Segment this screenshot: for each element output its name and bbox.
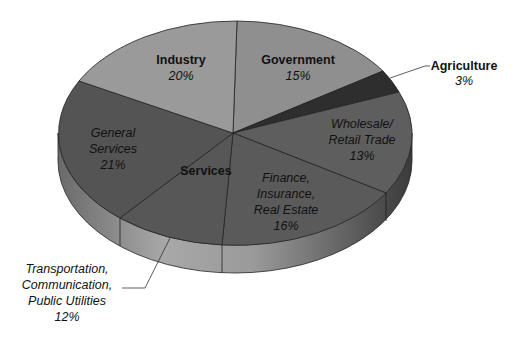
label-transport-2: Communication, xyxy=(22,278,112,292)
label-finance-2: Insurance, xyxy=(257,187,315,201)
pie-chart: Industry 20% Government 15% Agriculture … xyxy=(0,0,526,340)
label-government: Government xyxy=(261,53,335,67)
label-wholesale-2: Retail Trade xyxy=(328,133,395,147)
label-industry-pct: 20% xyxy=(167,69,193,83)
label-general-2: Services xyxy=(89,142,137,156)
label-transport-3: Public Utilities xyxy=(28,294,106,308)
leader-agriculture xyxy=(390,66,430,78)
label-finance-1: Finance, xyxy=(262,171,310,185)
label-finance-pct: 16% xyxy=(273,219,298,233)
label-wholesale-pct: 13% xyxy=(349,149,374,163)
label-transport-pct: 12% xyxy=(54,310,79,324)
label-transport-1: Transportation, xyxy=(25,262,108,276)
label-agriculture-pct: 3% xyxy=(455,74,473,88)
label-general-1: General xyxy=(91,126,137,140)
label-agriculture: Agriculture xyxy=(431,59,498,73)
label-services-group: Services xyxy=(180,164,231,178)
label-wholesale-1: Wholesale/ xyxy=(331,117,394,131)
label-government-pct: 15% xyxy=(285,69,310,83)
label-industry: Industry xyxy=(156,53,205,67)
label-general-pct: 21% xyxy=(99,158,125,172)
label-finance-3: Real Estate xyxy=(254,203,319,217)
